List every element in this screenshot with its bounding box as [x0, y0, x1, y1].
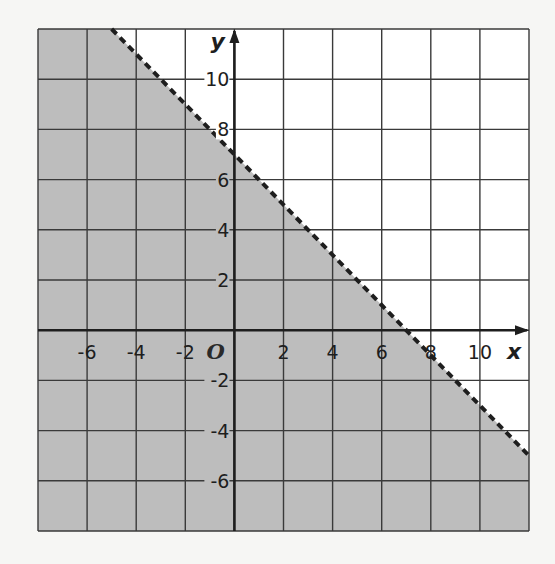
origin-label: O — [206, 339, 225, 364]
y-tick-label: 2 — [217, 269, 229, 291]
y-axis-label: y — [210, 29, 226, 54]
x-tick-label: -4 — [127, 341, 146, 363]
y-tick-label: 4 — [217, 219, 229, 241]
y-tick-label: 8 — [217, 118, 229, 140]
x-tick-label: 2 — [277, 341, 289, 363]
x-tick-label: 10 — [468, 341, 492, 363]
y-tick-label: 10 — [205, 68, 229, 90]
y-tick-label: 6 — [217, 169, 229, 191]
x-tick-label: -6 — [78, 341, 97, 363]
x-tick-label: -2 — [176, 341, 195, 363]
x-tick-label: 6 — [376, 341, 388, 363]
inequality-graph: -6-4-2246810-6-4-2246810 x y O — [0, 0, 555, 564]
y-tick-label: -6 — [210, 470, 229, 492]
y-tick-label: -2 — [210, 369, 229, 391]
y-tick-label: -4 — [210, 420, 229, 442]
x-tick-label: 4 — [327, 341, 339, 363]
x-tick-label: 8 — [425, 341, 437, 363]
x-axis-label: x — [506, 339, 522, 364]
